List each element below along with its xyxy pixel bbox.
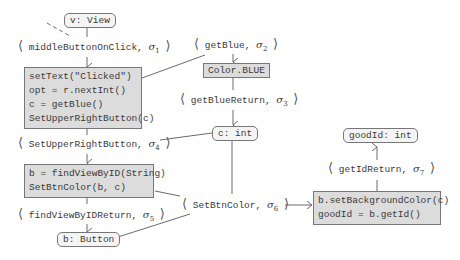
- code-line: b.setBackgroundColor(c): [318, 194, 436, 208]
- node-goodid-int-text: goodId: int: [349, 130, 412, 141]
- node-v-view: v: View: [64, 13, 116, 28]
- node-block-middle-button-onclick: setText("Clicked") opt = r.nextInt() c =…: [24, 67, 142, 129]
- node-block-set-upper-right-button: b = findViewByID(String) SetBtnColor(b, …: [24, 164, 154, 198]
- code-line: c = getBlue(): [29, 98, 137, 112]
- edge-label-find-view-by-id-return: ⟨ findViewByIDReturn, σ5 ⟩: [18, 206, 165, 223]
- code-line: SetUpperRightButton(c): [29, 112, 137, 126]
- code-line: opt = r.nextInt(): [29, 84, 137, 98]
- edge-label-get-blue-return: ⟨ getBlueReturn, σ3 ⟩: [180, 91, 298, 108]
- edge-label-middle-button-onclick: ⟨ middleButtonOnClick, σ1 ⟩: [18, 38, 171, 55]
- node-v-view-text: v: View: [70, 15, 110, 26]
- node-color-blue-text: Color.BLUE: [208, 65, 265, 76]
- node-color-blue: Color.BLUE: [203, 63, 270, 78]
- code-line: b = findViewByID(String): [29, 167, 149, 181]
- code-line: setText("Clicked"): [29, 70, 137, 84]
- node-c-int: c: int: [212, 126, 258, 141]
- edge-label-get-id-return: ⟨ getIdReturn, σ7 ⟩: [328, 160, 435, 177]
- node-b-button: b: Button: [57, 232, 120, 247]
- node-goodid-int: goodId: int: [343, 128, 418, 143]
- edge-label-set-btn-color: ⟨ SetBtnColor, σ6 ⟩: [182, 196, 289, 213]
- edge-label-get-blue: ⟨ getBlue, σ2 ⟩: [194, 36, 278, 53]
- node-b-button-text: b: Button: [63, 234, 114, 245]
- code-line: goodId = b.getId(): [318, 208, 436, 222]
- node-c-int-text: c: int: [218, 128, 252, 139]
- node-block-set-btn-color: b.setBackgroundColor(c) goodId = b.getId…: [313, 191, 441, 225]
- code-line: SetBtnColor(b, c): [29, 181, 149, 195]
- edge-label-set-upper-right-button: ⟨ SetUpperRightButton, σ4 ⟩: [18, 135, 171, 152]
